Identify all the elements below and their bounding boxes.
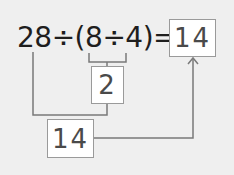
inner-divisor: 4 (125, 21, 142, 54)
result-value: 14 (52, 124, 89, 154)
dividend: 28 (17, 21, 52, 54)
equation: 28÷(8÷4)= (17, 20, 176, 56)
open-paren: ( (75, 21, 85, 54)
inner-dividend: 8 (85, 21, 102, 54)
intermediate-value: 2 (98, 70, 117, 100)
inner-divide-operator: ÷ (102, 21, 125, 54)
division-diagram: 28÷(8÷4)= 14 2 14 (0, 0, 234, 175)
answer-value: 14 (174, 23, 211, 53)
close-paren: ) (143, 21, 153, 54)
intermediate-box: 2 (91, 66, 124, 104)
answer-box: 14 (169, 19, 216, 57)
divide-operator: ÷ (52, 21, 75, 54)
result-box: 14 (47, 119, 94, 158)
